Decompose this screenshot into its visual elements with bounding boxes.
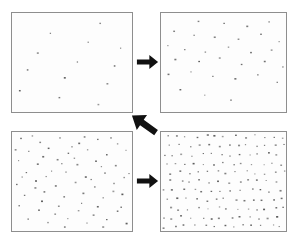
arrow-top-left-to-top-right [136, 52, 159, 72]
panel-bottom-right-points [161, 132, 286, 231]
panel-top-left-points [12, 13, 132, 112]
panel-bottom-left [11, 131, 133, 232]
panel-top-right-points [161, 13, 286, 112]
panel-bottom-left-points [12, 132, 132, 231]
figure-canvas [0, 0, 298, 242]
panel-top-right [160, 12, 287, 113]
arrow-bottom-left-to-bottom-right [136, 171, 159, 191]
arrow-top-right-to-bottom-left [128, 111, 160, 137]
panel-top-left [11, 12, 133, 113]
panel-bottom-right [160, 131, 287, 232]
